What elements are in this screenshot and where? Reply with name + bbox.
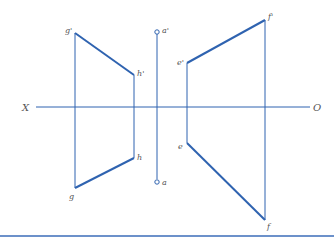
line-e-prime-f-prime bbox=[187, 20, 265, 63]
label-e-prime: e' bbox=[177, 58, 184, 67]
label-g: g bbox=[69, 192, 74, 201]
point-a-circle bbox=[155, 180, 159, 184]
label-e: e bbox=[178, 142, 183, 151]
label-a: a bbox=[162, 178, 167, 187]
label-h-prime: h' bbox=[137, 69, 144, 78]
line-e-f bbox=[187, 143, 265, 220]
line-g-prime-h-prime bbox=[75, 33, 134, 75]
label-h: h bbox=[137, 153, 142, 162]
label-f: f bbox=[266, 222, 272, 231]
point-a-prime-circle bbox=[155, 30, 159, 34]
orthographic-projection-diagram: X O g' h' g h a' a e' f' e f bbox=[0, 0, 334, 243]
label-g-prime: g' bbox=[65, 26, 72, 35]
line-g-h bbox=[75, 158, 134, 188]
label-f-prime: f' bbox=[267, 12, 273, 21]
label-a-prime: a' bbox=[162, 26, 169, 35]
axis-label-o: O bbox=[313, 102, 321, 113]
axis-label-x: X bbox=[21, 102, 30, 113]
